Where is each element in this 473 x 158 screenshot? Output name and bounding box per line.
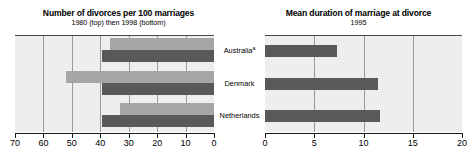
axis-tick-label: 70	[3, 138, 27, 149]
axis-tick-label: 40	[88, 138, 112, 149]
axis-tick-label: 15	[401, 138, 425, 149]
category-label-netherlands: Netherlands	[214, 111, 265, 120]
category-label-text: Australia	[224, 46, 253, 55]
category-label-text: Denmark	[225, 79, 255, 88]
bar-denmark-1998	[102, 83, 214, 95]
bar-australia-1998	[102, 50, 214, 62]
axis-tick-label: 60	[31, 138, 55, 149]
axis-tick-label: 0	[202, 138, 226, 149]
bar-netherlands-1995	[265, 110, 380, 122]
right-chart-top-rule	[265, 35, 462, 36]
gridline	[43, 35, 44, 132]
left-chart-plot-area	[15, 35, 214, 132]
footnote-marker: a	[252, 45, 255, 51]
axis-tick-label: 0	[253, 138, 277, 149]
left-chart-title: Number of divorces per 100 marriages	[0, 8, 237, 18]
left-chart-top-rule	[15, 35, 214, 36]
category-label-australia: Australiaa	[214, 46, 265, 55]
axis-tick-label: 20	[145, 138, 169, 149]
axis-tick-label: 5	[302, 138, 326, 149]
axis-tick-label: 10	[174, 138, 198, 149]
right-chart-title: Mean duration of marriage at divorce	[244, 8, 473, 18]
gridline	[72, 35, 73, 132]
gridline	[413, 35, 414, 132]
axis-tick-label: 30	[117, 138, 141, 149]
bar-denmark-1995	[265, 78, 378, 90]
left-chart-subtitle: 1980 (top) then 1998 (bottom)	[0, 18, 237, 27]
axis-tick-label: 20	[450, 138, 473, 149]
bar-denmark-1980	[66, 71, 214, 83]
right-chart-plot-area	[265, 35, 462, 132]
bar-australia-1980	[110, 38, 214, 50]
chart-figure: Number of divorces per 100 marriages 198…	[0, 0, 473, 158]
bar-netherlands-1998	[102, 115, 214, 127]
category-label-denmark: Denmark	[214, 79, 265, 88]
category-label-text: Netherlands	[220, 111, 260, 120]
axis-tick-label: 10	[352, 138, 376, 149]
bar-australia-1995	[265, 45, 337, 57]
bar-netherlands-1980	[120, 103, 214, 115]
axis-tick-label: 50	[60, 138, 84, 149]
right-chart-subtitle: 1995	[244, 18, 473, 27]
